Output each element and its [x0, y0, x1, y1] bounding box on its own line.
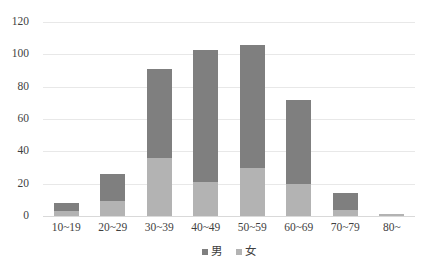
- bar-segment-male[interactable]: [240, 45, 265, 168]
- bar-segment-female[interactable]: [379, 214, 404, 216]
- y-tick-label-60: 60: [0, 113, 29, 125]
- gridline-0: [43, 216, 415, 217]
- legend-item-female[interactable]: 女: [236, 246, 256, 258]
- bar-segment-female[interactable]: [240, 168, 265, 217]
- bar-segment-female[interactable]: [286, 184, 311, 216]
- bar-segment-male[interactable]: [333, 193, 358, 209]
- x-tick-label: 30~39: [136, 222, 183, 234]
- bar-group[interactable]: [193, 49, 218, 216]
- bar-group[interactable]: [100, 174, 125, 216]
- bar-group[interactable]: [54, 203, 79, 216]
- x-tick-label: 60~69: [276, 222, 323, 234]
- legend-swatch-female-icon: [236, 249, 242, 255]
- bar-segment-male[interactable]: [100, 174, 125, 201]
- bar-segment-female[interactable]: [333, 210, 358, 216]
- bar-segment-male[interactable]: [286, 100, 311, 184]
- bar-segment-female[interactable]: [54, 211, 79, 216]
- y-tick-label-0: 0: [0, 210, 29, 222]
- y-tick-label-80: 80: [0, 81, 29, 93]
- plot-area: 120 100 80 60 40 20 0 10~1920~2930~3940~…: [43, 22, 415, 216]
- bar-group[interactable]: [286, 100, 311, 216]
- chart-legend: 男 女: [43, 246, 415, 258]
- legend-item-male[interactable]: 男: [202, 246, 222, 258]
- bar-group[interactable]: [147, 69, 172, 216]
- bar-group[interactable]: [333, 193, 358, 216]
- bar-group[interactable]: [379, 214, 404, 216]
- legend-label-male: 男: [211, 246, 222, 258]
- bar-segment-female[interactable]: [147, 158, 172, 216]
- stacked-bar-chart: 120 100 80 60 40 20 0 10~1920~2930~3940~…: [0, 0, 424, 262]
- bar-segment-male[interactable]: [193, 50, 218, 183]
- bars-layer: [43, 22, 415, 216]
- y-tick-label-40: 40: [0, 146, 29, 158]
- bar-segment-male[interactable]: [147, 69, 172, 158]
- bar-segment-female[interactable]: [193, 182, 218, 216]
- y-tick-label-120: 120: [0, 16, 29, 28]
- x-tick-label: 20~29: [90, 222, 137, 234]
- x-tick-label: 80~: [369, 222, 416, 234]
- y-tick-label-20: 20: [0, 178, 29, 190]
- legend-swatch-male-icon: [202, 249, 208, 255]
- x-tick-label: 70~79: [322, 222, 369, 234]
- y-tick-label-100: 100: [0, 49, 29, 61]
- bar-group[interactable]: [240, 45, 265, 216]
- legend-label-female: 女: [245, 246, 256, 258]
- x-tick-label: 40~49: [183, 222, 230, 234]
- x-tick-label: 50~59: [229, 222, 276, 234]
- bar-segment-male[interactable]: [54, 203, 79, 211]
- bar-segment-female[interactable]: [100, 201, 125, 216]
- x-tick-label: 10~19: [43, 222, 90, 234]
